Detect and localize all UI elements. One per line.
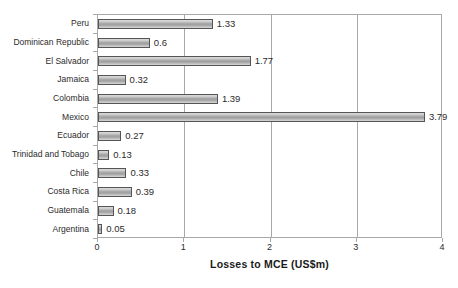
category-tick xyxy=(93,182,97,183)
category-label: Ecuador xyxy=(57,130,89,140)
category-label: Argentina xyxy=(53,224,89,234)
bar xyxy=(98,131,121,141)
bar-value-label: 0.32 xyxy=(130,72,149,88)
x-axis-tick xyxy=(356,238,357,242)
bar-row: 1.39 xyxy=(98,90,441,109)
bar-row: 1.77 xyxy=(98,52,441,71)
bar-row: 1.33 xyxy=(98,15,441,34)
x-axis-tick-label: 0 xyxy=(94,241,99,253)
category-label: Dominican Republic xyxy=(13,37,89,47)
bar-value-label: 0.39 xyxy=(136,184,155,200)
bar xyxy=(98,38,150,48)
x-axis-labels: 01234 xyxy=(0,241,458,255)
category-tick xyxy=(93,163,97,164)
bar-value-label: 0.05 xyxy=(106,221,125,237)
category-label: Trinidad and Tobago xyxy=(12,149,89,159)
x-axis-tick xyxy=(97,238,98,242)
bar-row: 0.32 xyxy=(98,71,441,90)
x-axis-title: Losses to MCE (US$m) xyxy=(97,258,442,270)
category-label: Mexico xyxy=(62,112,89,122)
x-axis-tick-label: 4 xyxy=(439,241,444,253)
x-axis-tick xyxy=(183,238,184,242)
plot-area: 1.330.61.770.321.393.790.270.130.330.390… xyxy=(97,14,442,238)
x-axis-tick-label: 1 xyxy=(181,241,186,253)
bar xyxy=(98,75,126,85)
bar-row: 0.33 xyxy=(98,164,441,183)
bar-value-label: 0.6 xyxy=(154,35,167,51)
category-tick xyxy=(93,14,97,15)
bar xyxy=(98,206,114,216)
category-tick xyxy=(93,201,97,202)
category-label: Colombia xyxy=(53,93,89,103)
bar-value-label: 0.33 xyxy=(130,165,149,181)
bar-value-label: 0.27 xyxy=(125,128,144,144)
bar-value-label: 3.79 xyxy=(429,109,448,125)
bar xyxy=(98,94,218,104)
x-axis-tick-label: 3 xyxy=(353,241,358,253)
bar xyxy=(98,112,425,122)
bar xyxy=(98,168,126,178)
category-tick xyxy=(93,51,97,52)
bar xyxy=(98,150,109,160)
category-label: Peru xyxy=(71,18,89,28)
bar-value-label: 0.18 xyxy=(118,203,137,219)
category-tick xyxy=(93,219,97,220)
x-axis-tick-label: 2 xyxy=(267,241,272,253)
bar-row: 0.6 xyxy=(98,34,441,53)
bar xyxy=(98,19,213,29)
category-tick xyxy=(93,107,97,108)
category-label: El Salvador xyxy=(46,56,89,66)
bar-row: 0.27 xyxy=(98,127,441,146)
bar-row: 3.79 xyxy=(98,108,441,127)
x-axis-tick xyxy=(442,238,443,242)
bar xyxy=(98,56,251,66)
bar-row: 0.39 xyxy=(98,183,441,202)
category-label: Costa Rica xyxy=(47,186,89,196)
category-label: Chile xyxy=(70,168,89,178)
bar-row: 0.05 xyxy=(98,220,441,239)
bar-row: 0.13 xyxy=(98,146,441,165)
category-tick xyxy=(93,89,97,90)
category-axis: PeruDominican RepublicEl SalvadorJamaica… xyxy=(0,14,93,238)
category-label: Jamaica xyxy=(57,74,89,84)
category-tick xyxy=(93,33,97,34)
bar xyxy=(98,187,132,197)
bar-value-label: 1.33 xyxy=(217,16,236,32)
category-tick xyxy=(93,70,97,71)
bar-row: 0.18 xyxy=(98,202,441,221)
x-axis-tick xyxy=(270,238,271,242)
bar-value-label: 0.13 xyxy=(113,147,132,163)
category-label: Guatemala xyxy=(47,205,89,215)
bar-value-label: 1.77 xyxy=(255,53,274,69)
category-tick xyxy=(93,145,97,146)
category-tick xyxy=(93,126,97,127)
bar-value-label: 1.39 xyxy=(222,91,241,107)
bar-chart: 1.330.61.770.321.393.790.270.130.330.390… xyxy=(0,0,458,288)
bar xyxy=(98,224,102,234)
